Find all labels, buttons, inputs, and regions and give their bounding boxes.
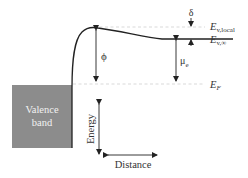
e-v-local-label: Ev,local (209, 21, 235, 34)
mu-e-label: μe (180, 55, 188, 69)
e-v-inf-subscript: v,∞ (216, 39, 226, 47)
e-f-subscript: F (215, 84, 221, 92)
valence-band-label-line1: Valence (25, 104, 59, 115)
e-f-label: EF (209, 79, 221, 92)
distance-axis-label: Distance (115, 159, 152, 170)
mu-subscript: e (185, 61, 188, 69)
energy-axis-label: Energy (85, 113, 96, 144)
e-v-local-subscript: v,local (216, 26, 234, 34)
band-diagram: Valence band ϕ μe δ Ev,local Ev,∞ EF Ene… (0, 0, 248, 178)
valence-band-label-line2: band (32, 117, 53, 128)
phi-label: ϕ (101, 50, 107, 62)
e-v-inf-label: Ev,∞ (209, 34, 226, 47)
delta-label: δ (189, 7, 194, 18)
